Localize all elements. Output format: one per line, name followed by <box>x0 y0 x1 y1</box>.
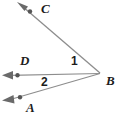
point-label-b: B <box>106 74 115 87</box>
ray-ba <box>2 74 100 104</box>
point-label-a: A <box>26 101 35 114</box>
angle-label-1: 1 <box>71 55 78 67</box>
point-label-d: D <box>20 54 29 67</box>
ray-ba-arrowhead <box>2 95 15 104</box>
point-d-dot <box>15 73 19 77</box>
ray-bd-arrowhead <box>2 71 13 80</box>
point-c-dot <box>28 9 32 13</box>
point-a-dot <box>18 95 22 99</box>
geometry-canvas <box>0 0 122 123</box>
ray-ba-segment <box>12 74 100 100</box>
ray-bc-segment <box>22 6 100 73</box>
point-label-c: C <box>41 2 50 15</box>
geometry-diagram: C D A B 1 2 <box>0 0 122 123</box>
angle-label-2: 2 <box>41 76 48 88</box>
ray-bd-segment <box>10 74 100 76</box>
ray-bc <box>17 2 100 73</box>
